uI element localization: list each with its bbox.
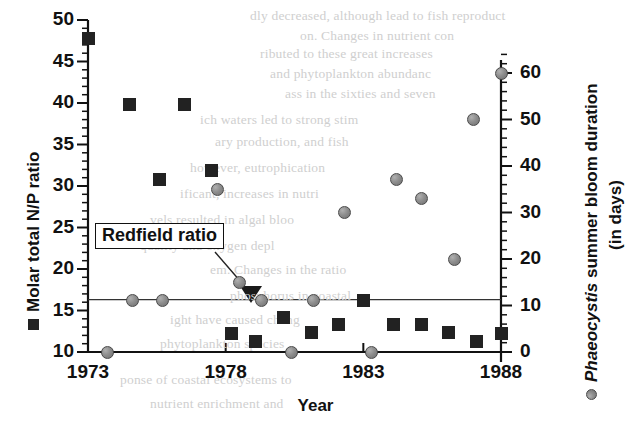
left-axis-title-text: Molar total N/P ratio [24, 152, 43, 312]
data-point-bloom-duration [415, 192, 428, 205]
chart-canvas: dly decreased, although lead to fish rep… [0, 0, 631, 433]
background-text-line: phytoplankton species [160, 336, 285, 352]
data-point-bloom-duration [233, 276, 246, 289]
background-text-line: phosphorus in coastal [230, 288, 351, 304]
left-y-tick-label: 50 [30, 8, 74, 30]
background-text-line: ributed to these great increases [260, 46, 433, 62]
background-text-line: on. Changes in nutrient con [300, 28, 454, 44]
data-point-bloom-duration [338, 206, 351, 219]
left-y-tick-label: 40 [30, 91, 74, 113]
right-y-tick-label: 40 [520, 154, 560, 176]
left-y-tick-label: 10 [30, 340, 74, 362]
background-text-line: em. Changes in the ratio [210, 262, 346, 278]
right-axis-title-genus: Phaeocystis [582, 283, 601, 382]
right-axis-title: Phaeocystis summer bloom duration [582, 0, 602, 400]
x-tick-label: 1973 [43, 361, 133, 383]
data-point-np-ratio [249, 335, 262, 348]
background-text-line: ich waters led to strong stim [200, 112, 358, 128]
background-text-line: ass in the sixties and seven [285, 86, 436, 102]
data-point-np-ratio [387, 318, 400, 331]
data-point-np-ratio [123, 98, 136, 111]
right-y-tick-label: 30 [520, 201, 560, 223]
background-text-line: dly decreased, although lead to fish rep… [250, 8, 506, 24]
left-y-tick-label: 45 [30, 50, 74, 72]
redfield-ratio-annotation: Redfield ratio [95, 223, 224, 249]
background-text-line: ary production, and fish [215, 134, 349, 150]
data-point-bloom-duration [365, 346, 378, 359]
right-axis-title-units: (in days) [606, 180, 626, 250]
data-point-np-ratio [305, 326, 318, 339]
data-point-bloom-duration [285, 346, 298, 359]
x-tick-label: 1983 [318, 361, 408, 383]
data-point-np-ratio [442, 326, 455, 339]
data-point-bloom-duration [495, 67, 508, 80]
data-point-np-ratio [357, 294, 370, 307]
right-y-tick-label: 50 [520, 108, 560, 130]
data-point-np-ratio [415, 318, 428, 331]
data-point-bloom-duration [211, 183, 224, 196]
right-y-tick-label: 10 [520, 294, 560, 316]
data-point-np-ratio [153, 173, 166, 186]
data-point-np-ratio [277, 311, 290, 324]
data-point-bloom-duration [101, 346, 114, 359]
background-text-line: and phytoplankton abundanc [270, 66, 431, 82]
x-tick-label: 1988 [456, 361, 546, 383]
right-axis-title-text: summer bloom duration [582, 83, 601, 282]
legend-square-icon [28, 319, 39, 330]
left-axis-title: Molar total N/P ratio [24, 152, 44, 330]
right-y-tick-label: 0 [520, 340, 560, 362]
data-point-np-ratio [470, 335, 483, 348]
right-y-tick-label: 60 [520, 61, 560, 83]
data-point-np-ratio [332, 318, 345, 331]
background-text-line: ificant, increases in nutri [180, 186, 319, 202]
data-point-np-ratio [178, 98, 191, 111]
data-point-bloom-duration [448, 253, 461, 266]
x-axis-title: Year [0, 396, 631, 416]
data-point-np-ratio [82, 32, 95, 45]
data-point-bloom-duration [126, 294, 139, 307]
data-point-bloom-duration [467, 113, 480, 126]
data-point-np-ratio [495, 327, 508, 340]
data-point-np-ratio [205, 164, 218, 177]
right-y-tick-label: 20 [520, 247, 560, 269]
x-tick-label: 1978 [181, 361, 271, 383]
data-point-np-ratio [225, 327, 238, 340]
